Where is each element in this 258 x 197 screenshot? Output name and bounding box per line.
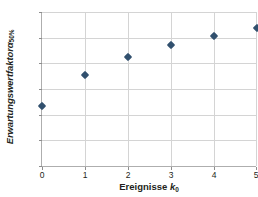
data-point	[38, 102, 46, 110]
data-point	[81, 71, 89, 79]
data-point	[124, 53, 132, 61]
plot-area: 0,6 0,5 0,4 0,3 0,2 0,1 0 0 1 2 3 4 5	[41, 12, 256, 167]
y-tick-mark	[39, 89, 42, 90]
gridline-horizontal	[42, 89, 256, 90]
gridline-horizontal	[42, 38, 256, 39]
x-tick-label: 2	[116, 170, 140, 180]
y-axis-title-text: Erwartungswertfaktor	[4, 48, 15, 144]
y-axis-title-symbol: α	[4, 42, 15, 48]
data-point	[167, 41, 175, 49]
y-tick-mark	[39, 115, 42, 116]
gridline-horizontal	[42, 115, 256, 116]
x-tick-label: 1	[73, 170, 97, 180]
x-axis-title-text: Ereignisse	[119, 181, 170, 192]
x-axis-title-subscript: 0	[175, 186, 179, 193]
y-axis-title: Erwartungswertfaktor α50%	[2, 12, 16, 162]
y-tick-mark	[39, 63, 42, 64]
y-tick-mark	[39, 38, 42, 39]
y-tick-mark	[39, 140, 42, 141]
gridline-horizontal	[42, 12, 256, 13]
chart-figure: Erwartungswertfaktor α50% 0,6 0,5	[0, 0, 258, 197]
gridline-vertical	[171, 12, 172, 166]
x-tick-label: 3	[159, 170, 183, 180]
data-point	[253, 24, 258, 32]
gridline-vertical	[85, 12, 86, 166]
gridline-horizontal	[42, 63, 256, 64]
x-tick-label: 4	[202, 170, 226, 180]
x-axis-title: Ereignisse k0	[40, 181, 258, 192]
y-axis-title-subscript: 50%	[8, 30, 15, 43]
gridline-horizontal	[42, 140, 256, 141]
y-tick-mark	[39, 12, 42, 13]
x-tick-label: 5	[244, 170, 258, 180]
gridline-vertical	[128, 12, 129, 166]
x-tick-label: 0	[30, 170, 54, 180]
gridline-vertical	[256, 12, 257, 166]
